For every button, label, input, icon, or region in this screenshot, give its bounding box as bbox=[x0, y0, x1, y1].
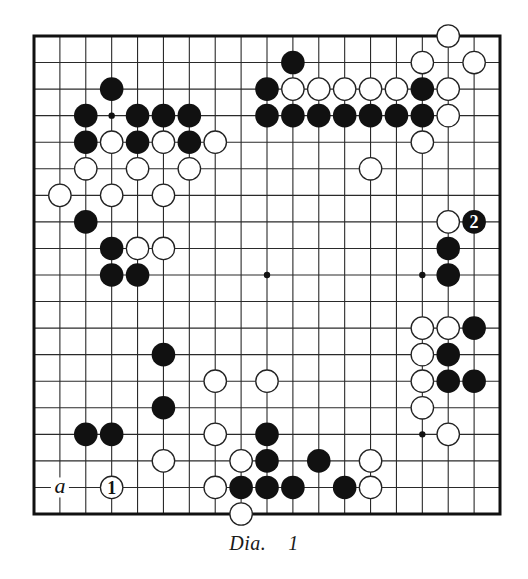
white-stone bbox=[100, 184, 122, 206]
white-stone bbox=[308, 78, 330, 100]
white-stone bbox=[333, 78, 355, 100]
black-stone bbox=[255, 423, 279, 447]
black-stone bbox=[359, 104, 383, 128]
white-stone bbox=[359, 476, 381, 498]
black-stone bbox=[281, 476, 305, 500]
white-stone bbox=[437, 78, 459, 100]
black-stone bbox=[436, 237, 460, 261]
black-stone bbox=[281, 104, 305, 128]
star-point bbox=[419, 272, 425, 278]
black-stone bbox=[411, 77, 435, 101]
black-stone bbox=[462, 316, 486, 340]
white-stone bbox=[152, 131, 174, 153]
black-stone bbox=[229, 476, 253, 500]
white-stone bbox=[230, 503, 252, 525]
white-stone bbox=[437, 423, 459, 445]
star-point bbox=[419, 431, 425, 437]
white-stone bbox=[411, 343, 433, 365]
black-stone bbox=[436, 343, 460, 367]
black-stone bbox=[385, 104, 409, 128]
white-stone bbox=[385, 78, 407, 100]
black-stone bbox=[74, 104, 98, 128]
black-stone bbox=[333, 476, 357, 500]
caption-number: 1 bbox=[288, 532, 299, 554]
black-stone bbox=[126, 104, 150, 128]
black-stone bbox=[255, 476, 279, 500]
white-stone bbox=[282, 78, 304, 100]
star-point bbox=[264, 272, 270, 278]
black-stone bbox=[74, 210, 98, 234]
black-stone bbox=[126, 263, 150, 287]
point-labels: a bbox=[51, 473, 69, 498]
white-stone bbox=[204, 131, 226, 153]
black-stone-2: 2 bbox=[462, 210, 486, 234]
black-stone bbox=[436, 369, 460, 393]
white-stone bbox=[204, 476, 226, 498]
black-stone bbox=[436, 263, 460, 287]
white-stone bbox=[463, 51, 485, 73]
black-stone bbox=[152, 343, 176, 367]
star-point bbox=[108, 112, 114, 118]
black-stone bbox=[255, 104, 279, 128]
black-stone bbox=[307, 449, 331, 473]
white-stone bbox=[359, 158, 381, 180]
white-stone bbox=[49, 184, 71, 206]
white-stone bbox=[204, 423, 226, 445]
white-stone bbox=[152, 237, 174, 259]
black-stone bbox=[333, 104, 357, 128]
white-stone bbox=[411, 317, 433, 339]
black-stone bbox=[178, 104, 202, 128]
black-stone bbox=[74, 423, 98, 447]
black-stone bbox=[126, 130, 150, 154]
white-stone bbox=[437, 25, 459, 47]
black-stone bbox=[100, 263, 124, 287]
white-stone bbox=[411, 131, 433, 153]
white-stone bbox=[256, 370, 278, 392]
diagram-caption: Dia.1 bbox=[0, 532, 528, 555]
black-stone bbox=[152, 104, 176, 128]
black-stone bbox=[100, 77, 124, 101]
white-stone bbox=[359, 78, 381, 100]
white-stone bbox=[230, 450, 252, 472]
white-stone-1: 1 bbox=[100, 476, 122, 498]
white-stone bbox=[411, 397, 433, 419]
go-diagram: a 21 Dia.1 bbox=[0, 0, 528, 579]
svg-text:2: 2 bbox=[470, 212, 479, 232]
white-stone bbox=[152, 184, 174, 206]
black-stone bbox=[281, 51, 305, 75]
white-stone bbox=[152, 450, 174, 472]
black-stone bbox=[462, 369, 486, 393]
black-stone bbox=[255, 77, 279, 101]
white-stone bbox=[437, 211, 459, 233]
white-stone bbox=[75, 158, 97, 180]
white-stone bbox=[411, 51, 433, 73]
svg-text:1: 1 bbox=[107, 478, 116, 498]
caption-prefix: Dia. bbox=[229, 532, 266, 554]
white-stone bbox=[126, 158, 148, 180]
white-stone bbox=[437, 317, 459, 339]
white-stone bbox=[204, 370, 226, 392]
black-stone bbox=[152, 396, 176, 420]
white-stone bbox=[359, 450, 381, 472]
black-stone bbox=[100, 237, 124, 261]
black-stone bbox=[100, 423, 124, 447]
point-label-a: a bbox=[54, 473, 65, 498]
white-stone bbox=[437, 104, 459, 126]
white-stone bbox=[178, 158, 200, 180]
white-stone bbox=[411, 370, 433, 392]
white-stone bbox=[100, 131, 122, 153]
black-stone bbox=[307, 104, 331, 128]
black-stone bbox=[74, 130, 98, 154]
black-stone bbox=[411, 104, 435, 128]
black-stone bbox=[178, 130, 202, 154]
go-board: a 21 bbox=[0, 0, 528, 579]
black-stone bbox=[255, 449, 279, 473]
white-stone bbox=[126, 237, 148, 259]
